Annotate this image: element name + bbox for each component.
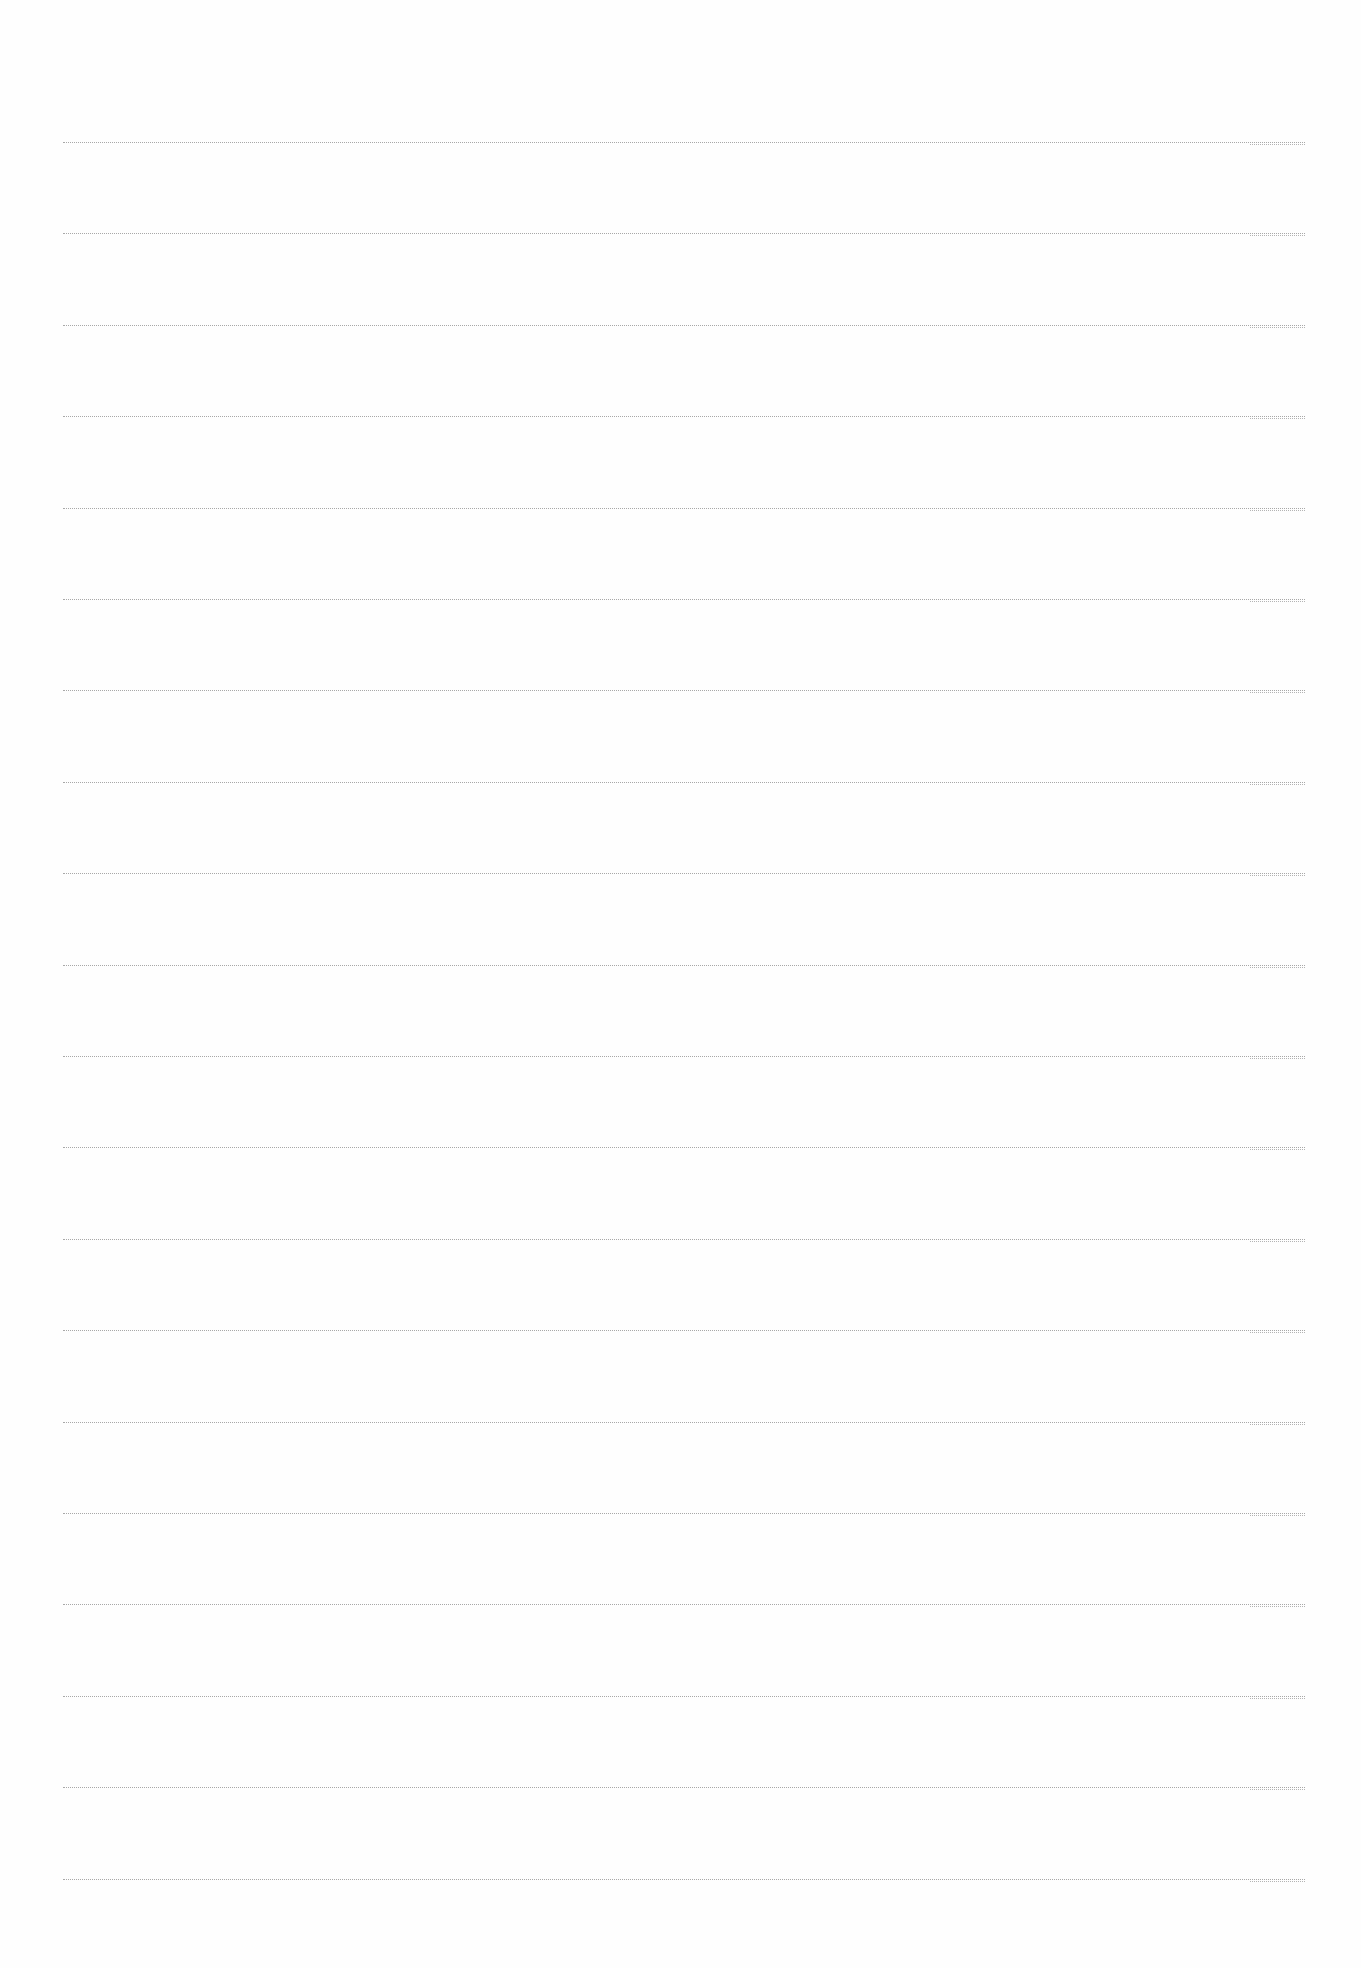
ruled-line-tail — [1250, 1332, 1305, 1333]
ruled-line-tail — [1250, 235, 1305, 236]
ruled-line-tail — [1250, 1515, 1305, 1516]
ruled-line — [63, 1696, 1305, 1698]
ruled-line-tail — [1250, 1241, 1305, 1242]
ruled-paper-page — [0, 0, 1361, 1968]
ruled-line — [63, 1513, 1305, 1515]
ruled-line-tail — [1250, 1606, 1305, 1607]
ruled-line-tail — [1250, 784, 1305, 785]
ruled-line — [63, 599, 1305, 601]
ruled-line — [63, 1330, 1305, 1332]
ruled-line — [63, 1056, 1305, 1058]
ruled-line — [63, 1787, 1305, 1789]
ruled-line-tail — [1250, 1149, 1305, 1150]
ruled-line — [63, 1422, 1305, 1424]
ruled-line-tail — [1250, 1881, 1305, 1882]
ruled-line-tail — [1250, 510, 1305, 511]
ruled-line-tail — [1250, 1058, 1305, 1059]
ruled-line — [63, 1147, 1305, 1149]
ruled-line — [63, 142, 1305, 144]
ruled-line-tail — [1250, 1698, 1305, 1699]
ruled-line-tail — [1250, 875, 1305, 876]
ruled-line — [63, 873, 1305, 875]
ruled-line — [63, 233, 1305, 235]
ruled-line-tail — [1250, 967, 1305, 968]
ruled-line — [63, 782, 1305, 784]
ruled-line — [63, 690, 1305, 692]
ruled-line-tail — [1250, 327, 1305, 328]
ruled-line-tail — [1250, 144, 1305, 145]
ruled-line-tail — [1250, 1789, 1305, 1790]
ruled-line-tail — [1250, 601, 1305, 602]
ruled-line — [63, 508, 1305, 510]
ruled-line-tail — [1250, 418, 1305, 419]
ruled-line-tail — [1250, 1424, 1305, 1425]
ruled-line — [63, 1604, 1305, 1606]
ruled-line — [63, 416, 1305, 418]
ruled-line — [63, 1239, 1305, 1241]
ruled-line — [63, 1879, 1305, 1881]
ruled-line — [63, 965, 1305, 967]
ruled-line-tail — [1250, 692, 1305, 693]
bleed-through-marks — [260, 30, 520, 110]
ruled-line — [63, 325, 1305, 327]
